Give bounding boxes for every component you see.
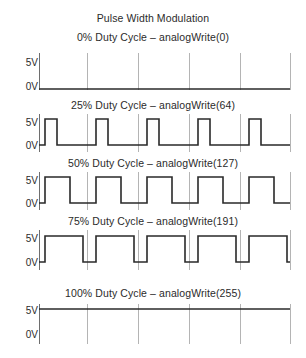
panel-caption-2: 50% Duty Cycle – analogWrite(127): [0, 157, 306, 169]
panel-caption-1: 25% Duty Cycle – analogWrite(64): [0, 99, 306, 111]
gridlines-4: [88, 304, 291, 344]
waveform-trace-3: [39, 236, 290, 262]
waveform-trace-2: [39, 177, 290, 203]
panel-caption-3: 75% Duty Cycle – analogWrite(191): [0, 215, 306, 227]
waveform-plot-3: [0, 228, 306, 274]
panel-caption-0: 0% Duty Cycle – analogWrite(0): [0, 31, 306, 43]
waveform-plot-0: [0, 48, 306, 94]
figure-title: Pulse Width Modulation: [0, 12, 306, 24]
panel-caption-4: 100% Duty Cycle – analogWrite(255): [0, 287, 306, 299]
waveform-plot-1: [0, 112, 306, 156]
gridlines-0: [88, 53, 291, 90]
waveform-trace-1: [39, 119, 290, 145]
waveform-plot-4: [0, 300, 306, 348]
waveform-plot-2: [0, 170, 306, 214]
pwm-figure: Pulse Width Modulation 0% Duty Cycle – a…: [0, 0, 306, 358]
